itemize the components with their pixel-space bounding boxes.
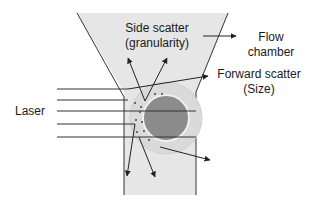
forward-scatter-label-line2: (Size) bbox=[209, 82, 309, 97]
side-scatter-label: Side scatter (granularity) bbox=[112, 21, 202, 51]
flow-chamber-label-line2: chamber bbox=[236, 45, 306, 60]
flow-chamber-label: Flow chamber bbox=[236, 30, 306, 60]
side-scatter-label-line2: (granularity) bbox=[112, 36, 202, 51]
forward-scatter-label-line1: Forward scatter bbox=[209, 67, 309, 82]
laser-label: Laser bbox=[15, 104, 45, 119]
forward-scatter-label: Forward scatter (Size) bbox=[209, 67, 309, 97]
cell-nucleus bbox=[143, 95, 189, 141]
flow-chamber-label-line1: Flow bbox=[236, 30, 306, 45]
side-scatter-label-line1: Side scatter bbox=[112, 21, 202, 36]
